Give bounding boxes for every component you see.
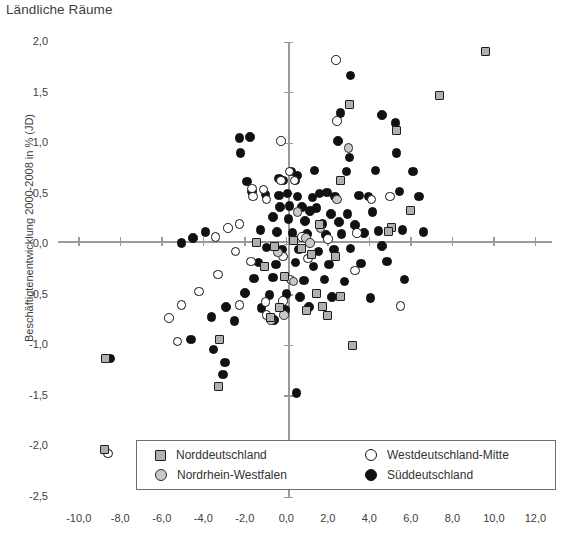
data-point bbox=[299, 276, 309, 286]
data-point bbox=[352, 228, 362, 238]
plot-area bbox=[58, 42, 552, 497]
data-point bbox=[177, 238, 187, 248]
data-point bbox=[236, 148, 246, 158]
legend-marker-icon bbox=[155, 469, 167, 481]
data-point bbox=[101, 354, 110, 363]
legend-marker-icon bbox=[155, 450, 166, 461]
data-point bbox=[252, 238, 261, 247]
data-point bbox=[346, 71, 356, 81]
data-point bbox=[312, 289, 321, 298]
data-point bbox=[207, 312, 217, 322]
data-point bbox=[408, 167, 418, 177]
x-tick-label: 6,0 bbox=[390, 512, 432, 524]
data-point bbox=[350, 266, 360, 276]
x-tick-label: 2,0 bbox=[307, 512, 349, 524]
data-point bbox=[324, 260, 334, 270]
data-point bbox=[246, 257, 256, 267]
data-point bbox=[280, 272, 289, 281]
data-point bbox=[302, 306, 311, 315]
data-point bbox=[223, 223, 233, 233]
legend-marker-icon bbox=[365, 469, 377, 481]
data-point bbox=[384, 227, 393, 236]
data-point bbox=[270, 242, 279, 251]
data-point bbox=[332, 195, 342, 205]
data-point bbox=[392, 126, 401, 135]
legend-item[interactable]: Norddeutschland bbox=[155, 448, 267, 462]
y-axis-line bbox=[288, 42, 290, 497]
data-point bbox=[345, 153, 355, 163]
data-point bbox=[309, 262, 319, 272]
data-point bbox=[334, 217, 344, 227]
x-tick bbox=[161, 237, 162, 246]
data-point bbox=[342, 167, 352, 177]
x-tick bbox=[535, 237, 536, 246]
data-point bbox=[218, 370, 228, 380]
data-point bbox=[340, 277, 350, 287]
data-point bbox=[235, 133, 245, 143]
data-point bbox=[371, 166, 381, 176]
data-point bbox=[385, 192, 395, 202]
x-tick bbox=[120, 237, 121, 246]
y-tick-label: 2,0 bbox=[8, 35, 48, 47]
x-tick bbox=[244, 237, 245, 246]
data-point bbox=[396, 301, 406, 311]
x-tick-label: -6,0 bbox=[141, 512, 183, 524]
data-point bbox=[305, 206, 315, 216]
x-tick bbox=[78, 237, 79, 246]
legend-item[interactable]: Süddeutschland bbox=[365, 468, 473, 482]
x-tick-label: 4,0 bbox=[348, 512, 390, 524]
y-tick bbox=[284, 42, 293, 43]
data-point bbox=[392, 148, 402, 158]
data-point bbox=[221, 302, 231, 312]
data-point bbox=[214, 382, 223, 391]
data-point bbox=[305, 238, 315, 248]
data-point bbox=[315, 220, 324, 229]
data-point bbox=[260, 262, 269, 271]
data-point bbox=[220, 358, 230, 368]
data-point bbox=[323, 311, 332, 320]
data-point bbox=[348, 341, 357, 350]
data-point bbox=[289, 277, 299, 287]
data-point bbox=[272, 227, 282, 237]
data-point bbox=[256, 225, 266, 235]
data-point bbox=[382, 257, 392, 267]
data-point bbox=[188, 233, 198, 243]
data-point bbox=[374, 226, 384, 236]
legend-label: Süddeutschland bbox=[387, 468, 473, 482]
legend-label: Westdeutschland-Mitte bbox=[387, 448, 509, 462]
data-point bbox=[406, 206, 415, 215]
legend-item[interactable]: Nordrhein-Westfalen bbox=[155, 468, 287, 482]
data-point bbox=[300, 216, 310, 226]
y-tick-label: 1,5 bbox=[8, 86, 48, 98]
data-point bbox=[293, 207, 303, 217]
data-point bbox=[307, 250, 316, 259]
data-point bbox=[395, 187, 405, 197]
y-tick-label: 1,0 bbox=[8, 136, 48, 148]
data-point bbox=[323, 234, 333, 244]
data-point bbox=[249, 274, 259, 284]
data-point bbox=[245, 132, 255, 142]
y-tick-label: -1,5 bbox=[8, 389, 48, 401]
data-point bbox=[368, 207, 378, 217]
x-tick-label: -10,0 bbox=[58, 512, 100, 524]
x-tick-label: 10,0 bbox=[473, 512, 515, 524]
x-tick bbox=[369, 237, 370, 246]
y-tick-label: -1,0 bbox=[8, 338, 48, 350]
y-tick-label: -2,5 bbox=[8, 490, 48, 502]
data-point bbox=[331, 252, 340, 261]
data-point bbox=[248, 192, 258, 202]
chart-canvas: Ländliche Räume Beschäftigtenentwicklung… bbox=[0, 0, 566, 535]
data-point bbox=[268, 212, 278, 222]
data-point bbox=[235, 219, 245, 229]
data-point bbox=[209, 345, 219, 355]
y-tick bbox=[284, 497, 293, 498]
legend-item[interactable]: Westdeutschland-Mitte bbox=[365, 448, 509, 462]
data-point bbox=[344, 143, 354, 153]
x-tick-label: 8,0 bbox=[431, 512, 473, 524]
data-point bbox=[366, 293, 376, 303]
data-point bbox=[275, 202, 285, 212]
y-tick-label: 0,0 bbox=[8, 237, 48, 249]
data-point bbox=[268, 273, 278, 283]
data-point bbox=[235, 300, 245, 310]
y-tick bbox=[284, 345, 293, 346]
